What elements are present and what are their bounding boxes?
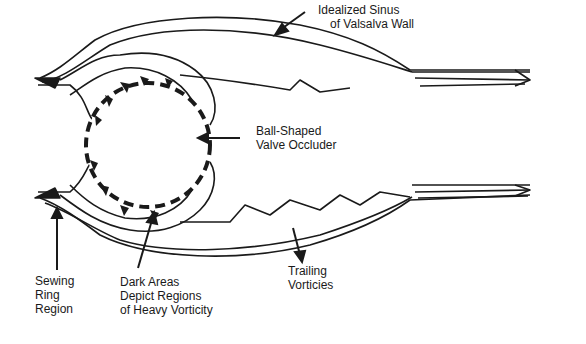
label-sinus-wall: Idealized Sinus of Valsalva Wall [318,3,414,31]
label-sewing-ring: Sewing Ring Region [35,274,74,316]
label-dark-areas: Dark Areas Depict Regions of Heavy Vorti… [120,275,213,317]
label-trailing: Trailing Vorticies [288,264,333,292]
vorticity-diagram [0,0,586,344]
label-occluder: Ball-Shaped Valve Occluder [256,124,336,152]
